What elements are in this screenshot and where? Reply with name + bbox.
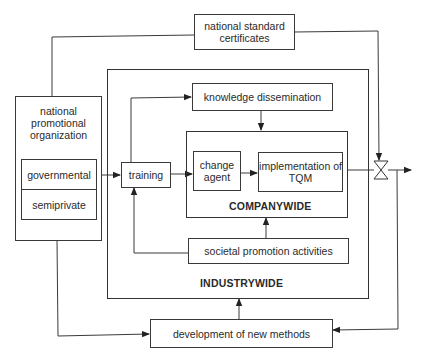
- node-semiprivate: semiprivate: [21, 189, 97, 220]
- node-governmental: governmental: [21, 159, 97, 190]
- node-training: training: [121, 162, 171, 188]
- industrywide-label: INDUSTRYWIDE: [200, 277, 283, 289]
- companywide-label: COMPANYWIDE: [229, 200, 312, 212]
- node-development-of-new-methods: development of new methods: [150, 319, 333, 348]
- node-national-standard-certificates: national standard certificates: [194, 14, 295, 50]
- valve-icon: [374, 161, 388, 179]
- node-societal-promotion-activities: societal promotion activities: [188, 238, 349, 264]
- node-implementation-of-tqm: implementation of TQM: [258, 152, 343, 192]
- node-knowledge-dissemination: knowledge dissemination: [192, 83, 333, 111]
- organization-title: national promotional organization: [30, 105, 87, 141]
- node-change-agent: change agent: [193, 151, 241, 191]
